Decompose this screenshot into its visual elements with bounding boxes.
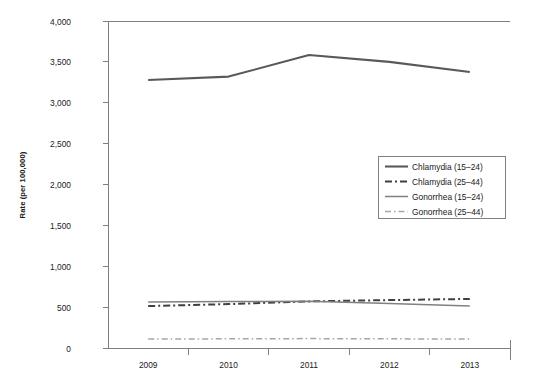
y-tick-label: 500 (57, 303, 71, 313)
y-tick-label: 0 (66, 344, 71, 354)
legend-label: Gonorrhea (25–44) (412, 207, 483, 217)
y-tick-label: 1,000 (50, 262, 71, 272)
y-tick-label: 3,000 (50, 98, 71, 108)
y-tick-label: 2,500 (50, 139, 71, 149)
y-tick-label: 3,500 (50, 57, 71, 67)
line-chart: Rate (per 100,000) 4,000 3,500 3,000 2,5… (0, 0, 551, 387)
chart-container: Rate (per 100,000) 4,000 3,500 3,000 2,5… (0, 0, 551, 387)
x-tick-label: 2009 (139, 360, 158, 370)
x-tick-label: 2012 (380, 360, 399, 370)
x-tick-label: 2013 (460, 360, 479, 370)
chart-legend: Chlamydia (15–24) Chlamydia (25–44) Gono… (379, 157, 506, 219)
x-axis-ticklabels: 2009 2010 2011 2012 2013 (139, 360, 480, 370)
y-tick-label: 4,000 (50, 17, 71, 27)
y-axis-title: Rate (per 100,000) (18, 151, 27, 218)
x-tick-label: 2011 (300, 360, 318, 370)
y-tick-label: 2,000 (50, 180, 71, 190)
y-axis-ticklabels: 4,000 3,500 3,000 2,500 2,000 1,500 1,00… (50, 17, 71, 354)
legend-label: Chlamydia (25–44) (412, 177, 483, 187)
x-axis-tickmarks (188, 348, 429, 355)
series-line (148, 55, 470, 80)
x-tick-label: 2010 (219, 360, 238, 370)
legend-label: Gonorrhea (15–24) (412, 192, 483, 202)
legend-label: Chlamydia (15–24) (412, 162, 483, 172)
y-axis-title-text: Rate (per 100,000) (18, 151, 27, 218)
y-tick-label: 1,500 (50, 221, 71, 231)
y-axis-tickmarks (103, 21, 108, 348)
